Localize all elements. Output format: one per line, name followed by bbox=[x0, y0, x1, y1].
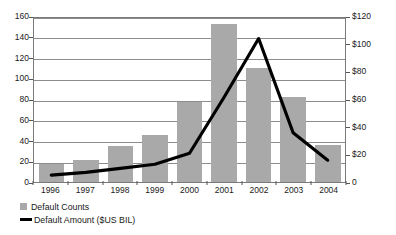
right-axis-tick bbox=[346, 44, 350, 45]
plot-area bbox=[33, 17, 346, 183]
right-axis-tick-label: $100 bbox=[352, 40, 371, 49]
legend-label-default-counts: Default Counts bbox=[31, 202, 89, 212]
left-axis-tick-label: 60 bbox=[4, 116, 29, 125]
right-axis-tick-label: $40 bbox=[352, 123, 366, 132]
x-axis-tick-label: 1999 bbox=[145, 185, 164, 195]
x-axis-tick bbox=[346, 181, 347, 185]
legend-item-default-amount: Default Amount ($US BIL) bbox=[20, 213, 135, 226]
right-axis-tick-label: 0 bbox=[352, 178, 357, 187]
legend-label-default-amount: Default Amount ($US BIL) bbox=[34, 215, 135, 225]
right-axis-tick-label: $20 bbox=[352, 150, 366, 159]
x-axis-tick-label: 2002 bbox=[250, 185, 269, 195]
line-swatch-icon bbox=[20, 218, 32, 221]
chart-container: 020406080100120140160 0$20$40$60$80$100$… bbox=[0, 0, 396, 235]
bar-swatch-icon bbox=[20, 203, 27, 210]
x-axis-tick-label: 1996 bbox=[41, 185, 60, 195]
x-axis-tick-label: 1998 bbox=[110, 185, 129, 195]
left-axis-tick-label: 80 bbox=[4, 95, 29, 104]
right-axis-tick bbox=[346, 155, 350, 156]
right-axis-tick bbox=[346, 72, 350, 73]
x-axis: 199619971998199920002001200220032004 bbox=[33, 185, 346, 199]
x-axis-tick bbox=[311, 181, 312, 185]
right-axis-tick bbox=[346, 127, 350, 128]
x-axis-tick bbox=[241, 181, 242, 185]
left-axis-tick-label: 0 bbox=[4, 178, 29, 187]
x-axis-tick-label: 2004 bbox=[319, 185, 338, 195]
right-axis-tick bbox=[346, 17, 350, 18]
left-axis-tick-label: 20 bbox=[4, 157, 29, 166]
x-axis-tick bbox=[102, 181, 103, 185]
x-axis-tick-label: 2000 bbox=[180, 185, 199, 195]
line-series-default-amount bbox=[34, 18, 345, 182]
right-axis-tick bbox=[346, 183, 350, 184]
right-axis-tick-label: $60 bbox=[352, 95, 366, 104]
x-axis-tick-label: 2001 bbox=[215, 185, 234, 195]
chart-legend: Default Counts Default Amount ($US BIL) bbox=[20, 200, 135, 226]
right-axis-tick-label: $80 bbox=[352, 67, 366, 76]
x-axis-tick bbox=[172, 181, 173, 185]
right-axis-tick-label: $120 bbox=[352, 12, 371, 21]
left-axis-tick-label: 100 bbox=[4, 74, 29, 83]
x-axis-tick bbox=[67, 181, 68, 185]
left-axis-tick-label: 120 bbox=[4, 54, 29, 63]
default-amount-polyline bbox=[51, 39, 327, 176]
line-svg bbox=[34, 18, 345, 182]
x-axis-tick bbox=[33, 181, 34, 185]
x-axis-tick bbox=[206, 181, 207, 185]
x-axis-tick bbox=[276, 181, 277, 185]
x-axis-tick-label: 2003 bbox=[284, 185, 303, 195]
left-axis-tick-label: 140 bbox=[4, 33, 29, 42]
right-axis-tick bbox=[346, 100, 350, 101]
legend-item-default-counts: Default Counts bbox=[20, 200, 135, 213]
left-axis-tick-label: 160 bbox=[4, 12, 29, 21]
x-axis-tick bbox=[137, 181, 138, 185]
x-axis-tick-label: 1997 bbox=[76, 185, 95, 195]
left-axis-tick-label: 40 bbox=[4, 137, 29, 146]
